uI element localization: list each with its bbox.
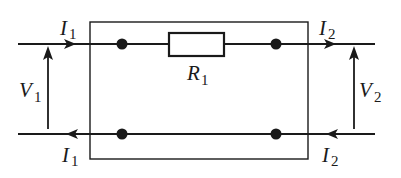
svg-text:1: 1 (71, 153, 79, 169)
label-i2-bottom: I 2 (321, 143, 339, 169)
label-i1-top: I 1 (59, 16, 77, 42)
junction-dot-top-right (271, 39, 282, 50)
label-r1: R 1 (186, 61, 209, 88)
label-v1: V 1 (19, 78, 42, 105)
svg-text:1: 1 (34, 89, 42, 105)
label-i1-bottom: I 1 (61, 143, 79, 169)
svg-text:2: 2 (331, 153, 339, 169)
svg-text:I: I (61, 143, 70, 167)
svg-text:I: I (321, 143, 330, 167)
label-v2: V 2 (359, 78, 382, 105)
label-i2-top: I 2 (318, 16, 336, 42)
junction-dot-bottom-left (117, 129, 128, 140)
resistor-r1 (169, 33, 224, 56)
junction-dot-top-left (117, 39, 128, 50)
svg-text:1: 1 (201, 72, 209, 88)
svg-text:I: I (59, 16, 68, 40)
two-port-diagram: I 1 I 2 I 1 I 2 V 1 V 2 R 1 (0, 0, 401, 178)
svg-text:I: I (318, 16, 327, 40)
svg-text:V: V (19, 78, 34, 102)
svg-text:2: 2 (374, 89, 382, 105)
svg-text:V: V (359, 78, 374, 102)
svg-text:R: R (186, 61, 200, 85)
svg-text:1: 1 (69, 26, 77, 42)
svg-text:2: 2 (328, 26, 336, 42)
junction-dot-bottom-right (271, 129, 282, 140)
